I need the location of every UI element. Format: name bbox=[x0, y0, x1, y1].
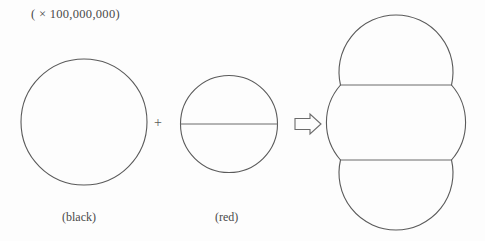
geometry-layer bbox=[0, 0, 485, 241]
black-circle bbox=[21, 59, 147, 185]
plus-operator: + bbox=[154, 116, 162, 130]
diagram-canvas: ( × 100,000,000) + (black) (red) bbox=[0, 0, 485, 241]
red-top-lobe-arc bbox=[180, 75, 277, 124]
label-black: (black) bbox=[62, 211, 96, 223]
figure-red-group bbox=[180, 75, 277, 172]
result-middle-left-arc bbox=[326, 85, 340, 160]
label-red: (red) bbox=[215, 211, 238, 223]
result-bottom-lobe-arc bbox=[339, 160, 453, 230]
result-top-lobe-arc bbox=[339, 15, 453, 85]
right-arrow-outline-icon bbox=[295, 114, 321, 134]
scale-note: ( × 100,000,000) bbox=[31, 8, 120, 21]
red-bottom-lobe-arc bbox=[180, 124, 277, 173]
figure-result-group bbox=[326, 15, 465, 230]
figure-black-group bbox=[21, 59, 147, 185]
result-middle-right-arc bbox=[452, 85, 466, 160]
